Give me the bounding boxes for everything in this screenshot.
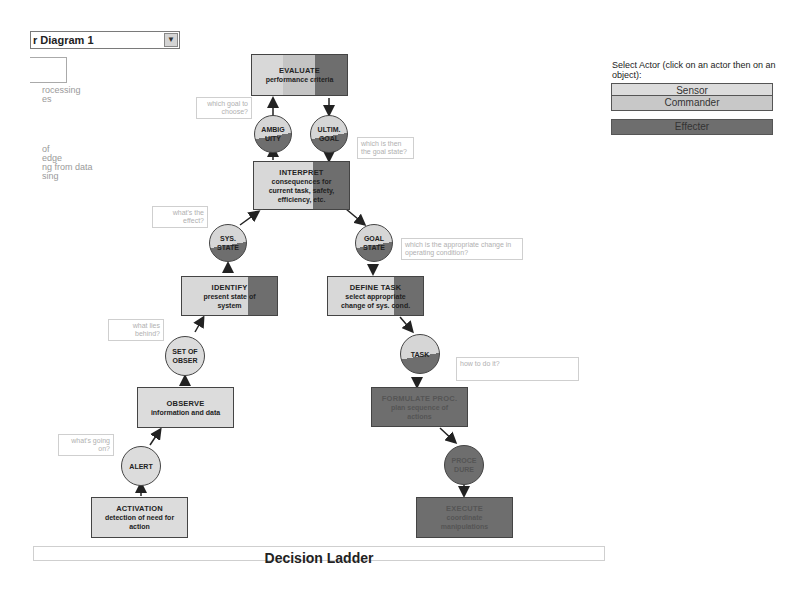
node-label: AMBIG <box>255 125 291 134</box>
node-subtitle: select appropriate <box>328 292 423 301</box>
node-title: OBSERVE <box>138 399 233 408</box>
node-procedure[interactable]: PROCE DURE <box>444 445 484 485</box>
node-label: ULTIM. <box>311 125 347 134</box>
node-subtitle: efficiency, etc. <box>254 195 349 204</box>
node-title: FORMULATE PROC. <box>372 394 467 403</box>
node-label: UITY <box>255 134 291 143</box>
node-subtitle: manipulations <box>417 522 512 531</box>
node-evaluate[interactable]: EVALUATE performance criteria <box>251 54 348 96</box>
note-whats-effect[interactable]: what's the effect? <box>152 206 208 228</box>
node-label: PROCE <box>445 456 483 465</box>
node-title: INTERPRET <box>254 168 349 177</box>
node-label: SYS. <box>210 234 246 243</box>
node-label: STATE <box>356 243 392 252</box>
node-label: OBSER <box>166 356 204 365</box>
note-which-goal-state[interactable]: which is then the goal state? <box>357 137 414 159</box>
node-subtitle: information and data <box>138 408 233 417</box>
note-which-change[interactable]: which is the appropriate change in opera… <box>401 238 523 260</box>
node-subtitle: performance criteria <box>252 75 347 84</box>
note-whats-going-on[interactable]: what's going on? <box>58 434 114 456</box>
node-subtitle: action <box>92 522 187 531</box>
node-formulate-proc[interactable]: FORMULATE PROC. plan sequence of actions <box>371 387 468 427</box>
node-title: EVALUATE <box>252 66 347 75</box>
node-title: IDENTIFY <box>182 283 277 292</box>
node-title: ACTIVATION <box>92 504 187 513</box>
node-subtitle: actions <box>372 412 467 421</box>
node-label: GOAL <box>356 234 392 243</box>
node-alert[interactable]: ALERT <box>121 446 161 486</box>
node-label: STATE <box>210 243 246 252</box>
node-label: ALERT <box>122 462 160 471</box>
node-subtitle: system <box>182 301 277 310</box>
node-subtitle: present state of <box>182 292 277 301</box>
node-goal-state[interactable]: GOAL STATE <box>355 224 393 262</box>
node-label: SET OF <box>166 347 204 356</box>
node-interpret[interactable]: INTERPRET consequences for current task,… <box>253 161 350 210</box>
diagram-title: Decision Ladder <box>33 546 605 561</box>
node-identify[interactable]: IDENTIFY present state of system <box>181 276 278 316</box>
node-subtitle: coordinate <box>417 513 512 522</box>
node-ultim-goal[interactable]: ULTIM. GOAL <box>310 115 348 153</box>
node-subtitle: consequences for <box>254 177 349 186</box>
node-activation[interactable]: ACTIVATION detection of need for action <box>91 497 188 538</box>
node-title: EXECUTE <box>417 504 512 513</box>
node-subtitle: detection of need for <box>92 513 187 522</box>
node-observe[interactable]: OBSERVE information and data <box>137 387 234 428</box>
node-subtitle: current task, safety, <box>254 186 349 195</box>
node-execute[interactable]: EXECUTE coordinate manipulations <box>416 497 513 538</box>
node-ambiguity[interactable]: AMBIG UITY <box>254 115 292 153</box>
node-set-of-obser[interactable]: SET OF OBSER <box>165 336 205 376</box>
node-subtitle: change of sys. cond. <box>328 301 423 310</box>
note-which-goal[interactable]: which goal to choose? <box>196 97 252 119</box>
node-label: DURE <box>445 465 483 474</box>
node-title: DEFINE TASK <box>328 283 423 292</box>
node-subtitle: plan sequence of <box>372 403 467 412</box>
node-task[interactable]: TASK <box>400 334 440 374</box>
node-define-task[interactable]: DEFINE TASK select appropriate change of… <box>327 276 424 316</box>
note-what-lies-behind[interactable]: what lies behind? <box>108 319 164 341</box>
node-sys-state[interactable]: SYS. STATE <box>209 224 247 262</box>
node-label: GOAL <box>311 134 347 143</box>
node-label: TASK <box>401 350 439 359</box>
note-how-to-do[interactable]: how to do it? <box>456 357 579 381</box>
